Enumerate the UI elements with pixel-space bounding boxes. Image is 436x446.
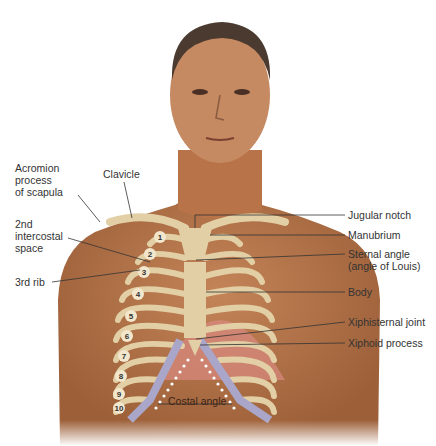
label-3rd-rib: 3rd rib: [15, 276, 45, 288]
svg-text:5: 5: [129, 312, 134, 321]
label-clavicle: Clavicle: [103, 168, 140, 180]
svg-text:8: 8: [119, 372, 124, 381]
label-intercostal: 2nd intercostal space: [15, 218, 63, 254]
svg-text:7: 7: [122, 352, 127, 361]
label-body: Body: [348, 286, 372, 298]
label-costal-angle: Costal angle: [168, 395, 226, 407]
svg-text:10: 10: [115, 404, 124, 413]
svg-text:9: 9: [117, 390, 122, 399]
label-acromion: Acromion process of scapula: [15, 162, 63, 198]
svg-text:3: 3: [142, 268, 147, 277]
label-manubrium: Manubrium: [348, 229, 401, 241]
svg-text:1: 1: [158, 233, 163, 242]
svg-text:6: 6: [125, 332, 130, 341]
svg-text:4: 4: [136, 290, 141, 299]
sternum-body: [184, 262, 206, 338]
label-jugular-notch: Jugular notch: [348, 209, 411, 221]
label-sternal-angle: Sternal angle (angle of Louis): [348, 248, 420, 272]
torso: [58, 190, 380, 446]
svg-text:2: 2: [148, 250, 153, 259]
anatomy-illustration: 1 2 3 4 5 6 7 8 9 10: [0, 0, 436, 446]
thorax-diagram: 1 2 3 4 5 6 7 8 9 10 Acromion process of…: [0, 0, 436, 446]
label-xiphisternal: Xiphisternal joint: [348, 316, 425, 328]
label-xiphoid: Xiphoid process: [348, 337, 423, 349]
